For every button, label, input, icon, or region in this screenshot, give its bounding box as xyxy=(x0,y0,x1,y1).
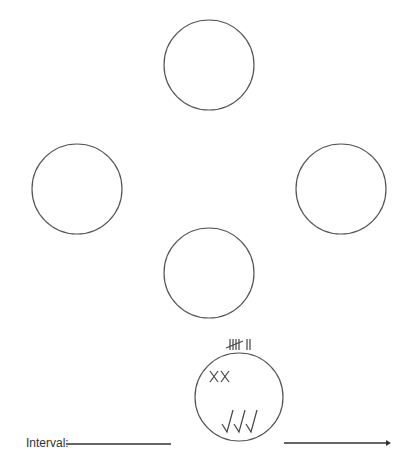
circle-top xyxy=(164,20,254,110)
circle-bottom xyxy=(195,353,283,441)
check-marks xyxy=(222,410,257,432)
interval-label: Interval: xyxy=(26,436,69,450)
circle-right xyxy=(296,144,386,234)
circle-left xyxy=(32,144,122,234)
diagram-canvas xyxy=(0,0,412,470)
cross-marks xyxy=(210,371,229,382)
circle-center xyxy=(164,228,254,318)
tally-marks xyxy=(226,339,250,350)
arrow-right-icon xyxy=(284,440,391,446)
